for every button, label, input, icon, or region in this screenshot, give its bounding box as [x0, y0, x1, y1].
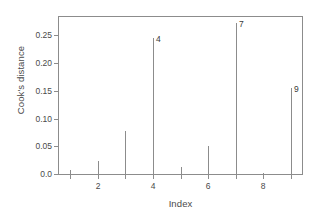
y-tick-label: 0.20	[26, 59, 52, 68]
x-tick-label: 8	[253, 181, 273, 191]
x-tick-label: 2	[88, 181, 108, 191]
x-tick-mark	[208, 175, 209, 179]
x-tick-label: 6	[198, 181, 218, 191]
x-tick-mark	[263, 175, 264, 179]
spike-bar	[291, 88, 292, 174]
spike-bar	[181, 167, 182, 174]
spike-label: 7	[239, 20, 244, 29]
y-tick-label: 0.05	[26, 142, 52, 151]
x-tick-mark	[181, 175, 182, 179]
plot-frame	[58, 16, 303, 175]
x-tick-mark	[70, 175, 71, 179]
spike-label: 9	[294, 85, 299, 94]
spike-bar	[98, 161, 99, 174]
spike-bar	[208, 146, 209, 174]
spike-bar	[70, 170, 71, 174]
x-axis-title: Index	[58, 198, 303, 209]
y-tick-label: 0.10	[26, 115, 52, 124]
plot-area: 479	[58, 16, 303, 175]
spike-bar	[263, 173, 264, 174]
x-tick-mark	[236, 175, 237, 179]
y-tick-label: 0.25	[26, 31, 52, 40]
x-tick-mark	[153, 175, 154, 179]
spike-bar	[236, 23, 237, 174]
x-tick-label: 4	[143, 181, 163, 191]
y-axis-title: Cook's distance	[14, 0, 28, 160]
y-tick-label: 0.15	[26, 87, 52, 96]
x-tick-mark	[125, 175, 126, 179]
x-tick-mark	[291, 175, 292, 179]
spike-bar	[125, 131, 126, 174]
spike-label: 4	[156, 35, 161, 44]
y-tick-label: 0.0	[26, 170, 52, 179]
x-tick-mark	[98, 175, 99, 179]
spike-bar	[153, 38, 154, 174]
cooks-distance-plot: Cook's distance Index 0.00.050.100.150.2…	[0, 0, 313, 221]
